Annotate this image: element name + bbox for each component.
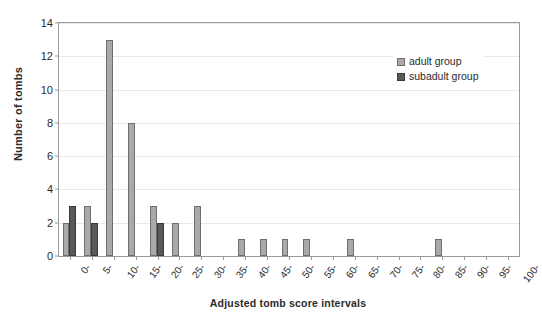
x-tick-label: 20- bbox=[168, 262, 186, 280]
bar-adult-group-45 bbox=[260, 239, 267, 256]
x-tick-label: 50- bbox=[300, 262, 318, 280]
x-tick-mark bbox=[267, 256, 268, 260]
x-tick-label: 40- bbox=[256, 262, 274, 280]
y-tick-label: 6 bbox=[47, 150, 53, 162]
x-tick-label: 55- bbox=[321, 262, 339, 280]
legend-item-adult: adult group bbox=[397, 54, 478, 69]
x-tick-mark bbox=[486, 256, 487, 260]
x-tick-mark bbox=[223, 256, 224, 260]
x-tick-mark bbox=[355, 256, 356, 260]
bar-adult-group-85 bbox=[435, 239, 442, 256]
x-tick-label: 45- bbox=[278, 262, 296, 280]
x-tick-mark bbox=[114, 256, 115, 260]
bar-adult-group-5 bbox=[84, 206, 91, 256]
x-tick-label: 5- bbox=[100, 262, 114, 276]
bar-adult-group-50 bbox=[282, 239, 289, 256]
x-tick-label: 100- bbox=[521, 262, 542, 285]
x-tick-mark bbox=[92, 256, 93, 260]
legend-item-subadult: subadult group bbox=[397, 69, 478, 84]
bar-subadult-group-5 bbox=[91, 223, 98, 256]
x-tick-label: 35- bbox=[234, 262, 252, 280]
y-tick-label: 2 bbox=[47, 217, 53, 229]
y-tick-label: 10 bbox=[41, 84, 53, 96]
x-tick-label: 65- bbox=[365, 262, 383, 280]
x-tick-mark bbox=[136, 256, 137, 260]
x-tick-label: 85- bbox=[453, 262, 471, 280]
bar-adult-group-55 bbox=[303, 239, 310, 256]
bar-subadult-group-0 bbox=[69, 206, 76, 256]
bar-adult-group-40 bbox=[238, 239, 245, 256]
legend-swatch-subadult-icon bbox=[397, 73, 405, 81]
x-tick-label: 25- bbox=[190, 262, 208, 280]
x-tick-label: 75- bbox=[409, 262, 427, 280]
x-tick-mark bbox=[158, 256, 159, 260]
y-axis-title: Number of tombs bbox=[12, 44, 24, 184]
chart-legend: adult group subadult group bbox=[393, 51, 483, 88]
legend-label-adult: adult group bbox=[409, 54, 462, 69]
bar-adult-group-10 bbox=[106, 40, 113, 256]
x-tick-label: 90- bbox=[475, 262, 493, 280]
x-tick-mark bbox=[70, 256, 71, 260]
x-tick-mark bbox=[508, 256, 509, 260]
legend-label-subadult: subadult group bbox=[409, 69, 478, 84]
x-tick-mark bbox=[201, 256, 202, 260]
x-tick-label: 60- bbox=[343, 262, 361, 280]
bar-adult-group-15 bbox=[128, 123, 135, 256]
y-tick-label: 4 bbox=[47, 183, 53, 195]
bar-adult-group-30 bbox=[194, 206, 201, 256]
bar-adult-group-20 bbox=[150, 206, 157, 256]
x-tick-mark bbox=[464, 256, 465, 260]
y-tick-label: 12 bbox=[41, 50, 53, 62]
x-tick-mark bbox=[245, 256, 246, 260]
x-tick-label: 15- bbox=[146, 262, 164, 280]
y-tick-label: 0 bbox=[47, 250, 53, 262]
bar-adult-group-0 bbox=[63, 223, 70, 256]
x-axis-title: Adjusted tomb score intervals bbox=[58, 297, 518, 309]
y-tick-label: 14 bbox=[41, 17, 53, 29]
x-tick-label: 70- bbox=[387, 262, 405, 280]
x-tick-label: 30- bbox=[212, 262, 230, 280]
bar-subadult-group-20 bbox=[157, 223, 164, 256]
bar-adult-group-25 bbox=[172, 223, 179, 256]
legend-swatch-adult-icon bbox=[397, 58, 405, 66]
x-tick-mark bbox=[399, 256, 400, 260]
x-tick-label: 10- bbox=[124, 262, 142, 280]
x-tick-label: 0- bbox=[78, 262, 92, 276]
y-tick-label: 8 bbox=[47, 117, 53, 129]
x-tick-mark bbox=[311, 256, 312, 260]
x-tick-mark bbox=[289, 256, 290, 260]
x-tick-mark bbox=[420, 256, 421, 260]
x-tick-mark bbox=[333, 256, 334, 260]
bar-adult-group-65 bbox=[347, 239, 354, 256]
x-tick-mark bbox=[442, 256, 443, 260]
x-tick-mark bbox=[179, 256, 180, 260]
x-tick-label: 95- bbox=[497, 262, 515, 280]
x-tick-mark bbox=[377, 256, 378, 260]
x-tick-label: 80- bbox=[431, 262, 449, 280]
